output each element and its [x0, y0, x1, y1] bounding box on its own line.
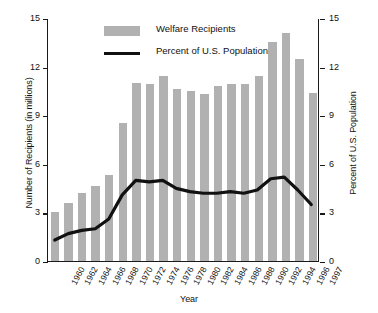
- welfare-recipients-chart: Number of Recipients (in millions) Perce…: [0, 0, 378, 313]
- legend-label-welfare-recipients: Welfare Recipients: [156, 23, 236, 34]
- x-axis-title: Year: [0, 294, 378, 304]
- bar-swatch-icon: [104, 26, 140, 36]
- y-axis-left-title: Number of Recipients (in millions): [24, 58, 34, 228]
- legend-label-percent-population: Percent of U.S. Population: [156, 45, 268, 56]
- y-axis-right-title: Percent of U.S. Population: [348, 58, 358, 228]
- line-swatch-icon: [104, 52, 140, 55]
